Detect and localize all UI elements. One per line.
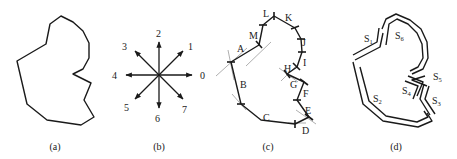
stroke-label-s1: S1 bbox=[364, 33, 373, 45]
stroke-label-s6: S6 bbox=[395, 30, 405, 42]
figure-canvas: (a) 0 1 2 3 4 5 6 7 (b) bbox=[0, 0, 457, 159]
seg-label-B: B bbox=[240, 79, 247, 90]
dir-label-7: 7 bbox=[182, 104, 187, 115]
seg-label-K: K bbox=[285, 12, 293, 23]
panel-c: A B C D E F G H I J K L M (c) bbox=[216, 8, 316, 153]
seg-label-F: F bbox=[303, 88, 309, 99]
seg-label-E: E bbox=[305, 105, 311, 116]
arrow-3 bbox=[135, 51, 159, 75]
seg-label-M: M bbox=[249, 30, 258, 41]
stroke-label-s3: S3 bbox=[432, 95, 441, 107]
dir-label-1: 1 bbox=[188, 41, 193, 52]
arrow-7 bbox=[159, 75, 183, 99]
panel-d bbox=[353, 14, 435, 127]
panel-d-labels: S1 S2 S3 S4 S5 S6 (d) bbox=[364, 30, 442, 153]
caption-a: (a) bbox=[49, 141, 60, 153]
dir-label-4: 4 bbox=[112, 70, 117, 81]
segment-ticks bbox=[227, 12, 313, 128]
dir-label-6: 6 bbox=[155, 113, 160, 124]
stroke-label-s5: S5 bbox=[433, 71, 442, 83]
arrow-1 bbox=[159, 51, 183, 75]
caption-b: (b) bbox=[153, 141, 165, 153]
seg-label-I: I bbox=[303, 57, 306, 68]
seg-label-H: H bbox=[284, 63, 291, 74]
seg-label-J: J bbox=[302, 37, 306, 48]
seg-label-G: G bbox=[290, 79, 297, 90]
stroke-label-s4: S4 bbox=[402, 85, 412, 97]
panel-a: (a) bbox=[17, 16, 94, 153]
contour-polygon bbox=[17, 16, 94, 125]
caption-c: (c) bbox=[262, 141, 273, 153]
stroke-label-s2: S2 bbox=[373, 93, 382, 105]
seg-label-C: C bbox=[263, 112, 270, 123]
seg-label-D: D bbox=[302, 125, 309, 136]
arrow-5 bbox=[135, 75, 159, 99]
dir-label-3: 3 bbox=[122, 41, 127, 52]
dir-label-0: 0 bbox=[200, 70, 205, 81]
dir-label-2: 2 bbox=[156, 28, 161, 39]
seg-label-L: L bbox=[263, 8, 269, 19]
segmented-contour bbox=[231, 16, 309, 124]
dir-label-5: 5 bbox=[124, 102, 129, 113]
caption-d: (d) bbox=[390, 141, 402, 153]
seg-label-A: A bbox=[237, 43, 245, 54]
panel-b bbox=[126, 42, 192, 108]
